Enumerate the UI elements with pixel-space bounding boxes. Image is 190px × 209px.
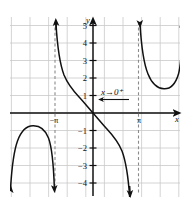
curve-branch-left [11,126,55,189]
curve-branch-right [140,24,183,89]
y-tick-label: −2 [78,143,87,153]
y-axis-label: y [85,15,90,25]
limit-annotation-label: x→0⁺ [100,87,124,97]
y-tick-label: −1 [78,126,87,136]
coordinate-plane-svg: 5 4 3 2 1 −1 −2 −3 −4 −5 −π π [0,0,190,209]
x-axis-label: x [174,114,179,124]
y-tick-label: 3 [83,56,87,66]
x-tick-label-pi: π [137,116,141,125]
grid-lines [10,17,180,197]
y-tick-label: 2 [83,73,87,83]
y-tick-label: 1 [83,91,87,101]
graph-figure: 5 4 3 2 1 −1 −2 −3 −4 −5 −π π [0,0,190,209]
x-tick-label-neg-pi: −π [50,116,59,125]
y-tick-label: −3 [78,161,87,171]
axes [10,21,177,196]
y-tick-label: −4 [78,178,88,188]
